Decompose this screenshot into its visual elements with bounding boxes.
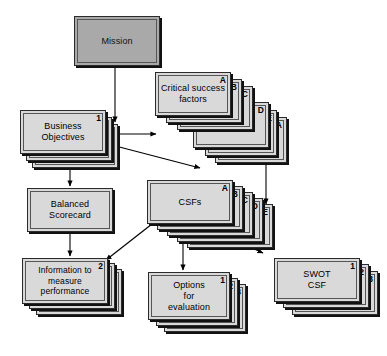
card-inner-border [150, 183, 230, 221]
card-inner-border [23, 113, 103, 151]
card-inner-border [77, 19, 157, 63]
balanced-scorecard-card[interactable]: Balanced Scorecard [27, 188, 113, 232]
node-options-for-evaluation[interactable]: 3 2 1 Options for evaluation [148, 272, 253, 336]
card-inner-border [25, 261, 105, 301]
critical-success-factors-tag-4: D [258, 106, 264, 115]
node-balanced-scorecard[interactable]: Balanced Scorecard [27, 188, 119, 236]
options-card-1[interactable]: 1 Options for evaluation [148, 272, 230, 320]
card-inner-border [30, 191, 110, 229]
critical-success-factors-card-1[interactable]: A Critical success factors [155, 72, 231, 116]
csfs-tag-5: E [262, 208, 268, 217]
card-inner-border [277, 261, 357, 299]
node-mission[interactable]: Mission [74, 16, 164, 70]
card-inner-border [158, 75, 228, 113]
card-inner-border [151, 275, 227, 317]
business-objectives-tag-1: 1 [96, 114, 101, 123]
node-swot-csf[interactable]: 3 2 1 SWOT CSF [274, 258, 382, 320]
information-card-1[interactable]: 2 Information to measure performance [22, 258, 108, 304]
business-objectives-card-1[interactable]: 1 Business Objectives [20, 110, 106, 154]
swot-csf-card-1[interactable]: 1 SWOT CSF [274, 258, 360, 302]
critical-success-factors-tag-1: A [220, 76, 226, 85]
information-tag-2: 2 [98, 262, 103, 271]
node-information-to-measure-performance[interactable]: 3 2 Information to measure performance [22, 258, 127, 320]
node-critical-success-factors[interactable]: A E D C B A Critical success factors [155, 72, 290, 172]
critical-success-factors-tag-3: C [242, 90, 248, 99]
swot-csf-tag-1: 1 [350, 262, 355, 271]
csfs-card-1[interactable]: A CSFs [147, 180, 233, 224]
node-csfs[interactable]: E D C B A CSFs [147, 180, 272, 256]
node-business-objectives[interactable]: 3 2 1 Business Objectives [20, 110, 120, 172]
options-tag-1: 1 [220, 276, 225, 285]
mission-card[interactable]: Mission [74, 16, 160, 66]
critical-success-factors-tag-2: B [231, 83, 237, 92]
flow-diagram: Mission 3 2 1 Business Objectives A [0, 0, 387, 356]
csfs-tag-1: A [222, 184, 228, 193]
